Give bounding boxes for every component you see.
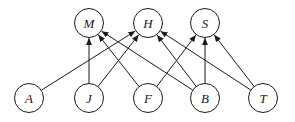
edge-b-to-m [102,31,193,90]
node-label: S [202,16,209,31]
node-label: T [259,91,267,106]
node-s: S [191,9,220,38]
node-b: B [191,84,220,113]
node-j: J [75,84,104,113]
edge-a-to-h [41,31,135,90]
node-a: A [15,84,44,113]
node-m: M [75,9,104,38]
node-label: H [142,16,153,31]
node-h: H [134,9,163,38]
node-t: T [249,84,278,113]
node-label: M [83,16,96,31]
node-label: B [201,91,209,106]
node-label: A [24,91,33,106]
edges-group [41,31,254,90]
node-f: F [134,84,163,113]
edge-t-to-h [161,31,251,90]
bipartite-graph: MHSAJFBT [0,0,295,122]
node-label: F [143,91,153,106]
nodes-group: MHSAJFBT [15,9,278,113]
